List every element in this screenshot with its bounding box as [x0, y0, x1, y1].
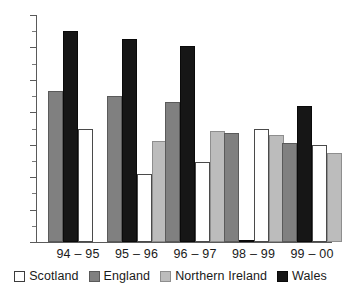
y-tick-12 — [30, 47, 36, 48]
y-minor-tick-13 — [32, 31, 36, 32]
legend-item-england[interactable]: England — [89, 269, 151, 283]
x-tick-label: 99 – 00 — [282, 247, 342, 261]
legend-label: England — [104, 269, 151, 283]
y-tick-0 — [30, 242, 36, 243]
bar-england — [48, 91, 63, 242]
bar-wales — [239, 240, 254, 242]
bar-wales — [297, 106, 312, 242]
bar-scotland — [195, 162, 210, 242]
bar-england — [165, 102, 180, 242]
x-tick-label: 94 – 95 — [48, 247, 108, 261]
x-tick-label: 98 – 99 — [224, 247, 284, 261]
bar-scotland — [137, 174, 152, 242]
bar-england — [107, 96, 122, 242]
bar-group — [224, 15, 284, 242]
bar-group — [107, 15, 167, 242]
y-tick-14 — [30, 15, 36, 16]
y-axis-line — [36, 15, 37, 243]
y-minor-tick-5 — [32, 161, 36, 162]
x-tick-label: 95 – 96 — [107, 247, 167, 261]
legend-swatch-icon — [14, 271, 25, 282]
bar-group — [48, 15, 108, 242]
bar-wales — [63, 31, 78, 242]
legend-swatch-icon — [160, 271, 171, 282]
legend-swatch-icon — [89, 271, 100, 282]
bar-scotland — [312, 145, 327, 242]
y-minor-tick-3 — [32, 193, 36, 194]
y-tick-4 — [30, 177, 36, 178]
plot-area: 02468101214 — [36, 15, 332, 243]
y-minor-tick-7 — [32, 129, 36, 130]
legend-label: Scotland — [29, 269, 78, 283]
legend-label: Wales — [292, 269, 327, 283]
bar-northern-ireland — [327, 153, 342, 242]
bar-england — [282, 143, 297, 242]
bar-group — [282, 15, 342, 242]
legend-item-wales[interactable]: Wales — [277, 269, 327, 283]
y-tick-2 — [30, 210, 36, 211]
legend-swatch-icon — [277, 271, 288, 282]
bar-wales — [122, 39, 137, 242]
legend-item-scotland[interactable]: Scotland — [14, 269, 78, 283]
y-minor-tick-9 — [32, 96, 36, 97]
y-tick-10 — [30, 80, 36, 81]
y-minor-tick-1 — [32, 226, 36, 227]
legend-item-northern-ireland[interactable]: Northern Ireland — [160, 269, 267, 283]
bar-wales — [180, 46, 195, 242]
x-axis-line — [36, 242, 332, 243]
chart-legend: ScotlandEnglandNorthern IrelandWales — [0, 266, 341, 286]
bar-scotland — [78, 129, 93, 243]
legend-label: Northern Ireland — [175, 269, 267, 283]
y-tick-8 — [30, 112, 36, 113]
bar-scotland — [254, 129, 269, 242]
bar-england — [224, 133, 239, 242]
x-tick-label: 96 – 97 — [165, 247, 225, 261]
bar-group — [165, 15, 225, 242]
y-minor-tick-11 — [32, 64, 36, 65]
y-tick-6 — [30, 145, 36, 146]
